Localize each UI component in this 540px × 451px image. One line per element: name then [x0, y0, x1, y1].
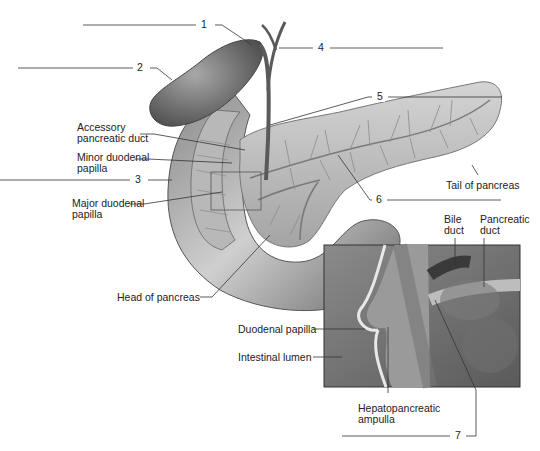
callout-6: 6	[374, 194, 384, 205]
callout-2: 2	[135, 62, 145, 73]
label-accessory-pancreatic-duct: Accessory pancreatic duct	[77, 122, 148, 144]
callout-1: 1	[199, 19, 209, 30]
anatomy-figure: 1 2 3 4 5 6 7 Accessory pancreatic duct …	[0, 0, 540, 451]
label-head-of-pancreas: Head of pancreas	[117, 292, 200, 303]
label-major-duodenal-papilla: Major duodenal papilla	[72, 198, 144, 220]
inset-detail	[324, 245, 520, 387]
label-bile-duct: Bile duct	[444, 214, 464, 236]
label-tail-of-pancreas: Tail of pancreas	[446, 180, 520, 191]
callout-4: 4	[316, 42, 326, 53]
label-duodenal-papilla: Duodenal papilla	[238, 324, 316, 335]
label-hepatopancreatic-ampulla: Hepatopancreatic ampulla	[358, 403, 440, 425]
callout-5: 5	[375, 91, 385, 102]
label-pancreatic-duct: Pancreatic duct	[480, 214, 530, 236]
label-minor-duodenal-papilla: Minor duodenal papilla	[77, 152, 149, 174]
label-intestinal-lumen: Intestinal lumen	[238, 352, 312, 363]
callout-7: 7	[453, 430, 463, 441]
callout-3: 3	[133, 174, 143, 185]
